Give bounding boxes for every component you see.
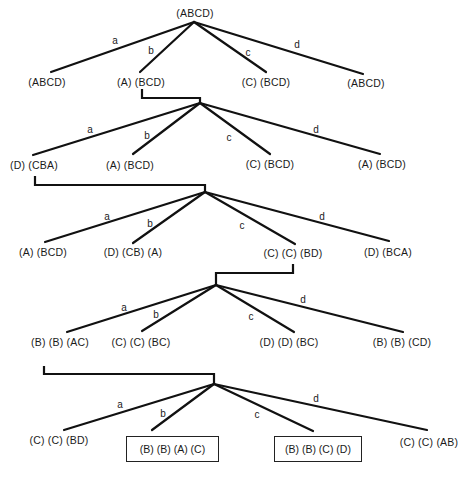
node-l0-b: (A) (BCD) [117,76,165,88]
node-l2-a: (A) (BCD) [19,246,67,258]
boxed-solution-1: (B) (B) (A) (C) [126,436,219,462]
node-l0-d: (ABCD) [347,77,384,89]
node-l3-a: (B) (B) (AC) [31,336,89,348]
node-l1-a: (D) (CBA) [10,159,58,171]
edge-label-d: d [300,294,306,305]
node-l1-d: (A) (BCD) [358,158,406,170]
boxed-solution-2: (B) (B) (C) (D) [274,436,362,462]
node-l2-d: (D) (BCA) [364,246,412,258]
node-l0-a: (ABCD) [28,76,65,88]
edge-label-b: b [148,45,154,56]
edge-label-c: c [227,132,232,143]
edge-label-c: c [255,409,260,420]
node-l4-d: (C) (C) (AB) [400,436,458,448]
node-l4-a: (C) (C) (BD) [30,434,89,446]
edge-label-b: b [153,309,159,320]
level-1-edges [33,103,380,155]
edge-label-a: a [104,211,110,222]
connector-3 [216,264,293,285]
edge-label-c: c [246,47,251,58]
node-l0-c: (C) (BCD) [242,76,290,88]
level-0-edges [51,22,363,74]
node-l4-b: (B) (B) (A) (C) [140,443,205,455]
node-l2-b: (D) (CB) (A) [104,246,162,258]
connector-1 [142,89,200,103]
edge-label-b: b [144,130,150,141]
edge-label-c: c [249,311,254,322]
connector-4 [44,366,214,384]
node-l3-d: (B) (B) (CD) [373,336,431,348]
edge-label-a: a [87,124,93,135]
edge-label-a: a [121,302,127,313]
connector-2 [35,176,205,192]
edge-label-d: d [313,393,319,404]
node-l2-c: (C) (C) (BD) [264,247,323,259]
node-l3-c: (D) (D) (BC) [260,336,319,348]
node-l1-c: (C) (BCD) [246,158,294,170]
node-l4-c: (B) (B) (C) (D) [285,443,351,455]
edge-label-a: a [112,35,118,46]
edge-label-b: b [160,408,166,419]
level-3-edges [67,285,403,332]
edge-label-b: b [147,218,153,229]
tree-lines [0,0,472,478]
edge-label-d: d [319,211,325,222]
level-2-edges [45,192,389,244]
node-l3-b: (C) (C) (BC) [112,336,171,348]
edge-label-c: c [240,220,245,231]
root-node: (ABCD) [176,7,213,19]
edge-label-d: d [313,124,319,135]
edge-label-d: d [294,39,300,50]
edge-label-a: a [117,399,123,410]
node-l1-b: (A) (BCD) [106,159,154,171]
